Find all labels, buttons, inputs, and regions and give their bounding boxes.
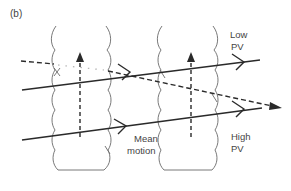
right-mean-motion-arrow [187,52,195,137]
chevron-right-icon [232,101,244,117]
panel-label: (b) [10,8,22,19]
mean-motion-label-line2: motion [127,145,156,156]
left-vortex-tube [51,26,111,170]
upper-solid-trajectory [22,54,260,90]
arrowhead-right-icon [269,102,282,110]
low-pv-label-line1: Low [230,29,248,40]
left-mean-motion-arrow [76,52,84,137]
mean-motion-label-line1: Mean [134,133,158,144]
pv-diagram: (b) Low PV Me [0,0,291,191]
high-pv-label-line1: High [231,131,251,142]
low-pv-label-line2: PV [231,41,244,52]
right-vortex-tube [157,26,218,170]
arrowhead-up-icon [76,52,84,62]
arrowhead-up-icon [187,52,195,62]
high-pv-label-line2: PV [231,143,244,154]
